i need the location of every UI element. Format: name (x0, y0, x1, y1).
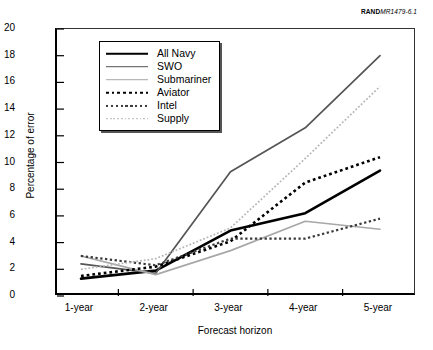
x-axis-tick-label: 4-year (263, 302, 343, 313)
y-axis-tick-label: 14 (0, 103, 15, 113)
series-line (81, 221, 380, 274)
y-axis-tick-label: 20 (0, 23, 15, 33)
rand-source-label: RANDMR1479-6.1 (361, 8, 417, 15)
x-axis-tick-label: 1-year (39, 302, 119, 313)
y-axis-title: Percentage of error (25, 66, 36, 246)
y-axis-tick-label: 16 (0, 76, 15, 86)
y-axis-tick-label: 2 (0, 263, 15, 273)
legend-label: Intel (157, 100, 177, 111)
legend-item: All Navy (106, 47, 211, 60)
legend-swatch-icon (106, 75, 148, 85)
y-axis-tick-label: 6 (0, 210, 15, 220)
x-axis-tick-label: 3-year (189, 302, 269, 313)
legend-label: SWO (157, 61, 182, 72)
legend-swatch-icon (106, 101, 148, 111)
x-axis-tick-label: 5-year (338, 302, 418, 313)
legend-label: All Navy (157, 48, 196, 59)
legend-label: Aviator (157, 87, 190, 98)
y-axis-tick-label: 0 (0, 290, 15, 300)
legend-item: Supply (106, 112, 211, 125)
legend-item: SWO (106, 60, 211, 73)
y-axis-tick-label: 4 (0, 237, 15, 247)
legend: All NavySWOSubmarinerAviatorIntelSupply (99, 41, 220, 131)
series-line (81, 219, 380, 266)
y-axis-tick-label: 18 (0, 50, 15, 60)
rand-code: MR1479-6.1 (380, 8, 417, 15)
legend-swatch-icon (106, 114, 148, 124)
figure-container: RANDMR1479-6.1 Percentage of error Forec… (0, 0, 433, 350)
legend-swatch-icon (106, 49, 148, 59)
rand-prefix: RAND (361, 8, 380, 15)
y-axis-tick-label: 8 (0, 183, 15, 193)
x-axis-tick-label: 2-year (114, 302, 194, 313)
legend-label: Submariner (157, 74, 211, 85)
legend-item: Intel (106, 99, 211, 112)
legend-swatch-icon (106, 62, 148, 72)
y-axis-tick-label: 10 (0, 157, 15, 167)
x-axis-title: Forecast horizon (55, 325, 415, 336)
legend-label: Supply (157, 113, 189, 124)
legend-swatch-icon (106, 88, 148, 98)
series-line (81, 157, 380, 276)
legend-item: Submariner (106, 73, 211, 86)
y-axis-tick-label: 12 (0, 130, 15, 140)
legend-item: Aviator (106, 86, 211, 99)
